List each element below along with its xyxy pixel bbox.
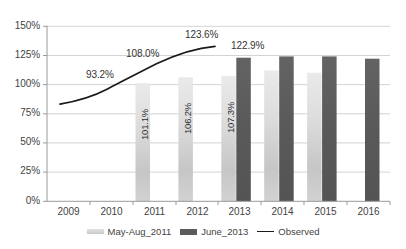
y-tick-label-50: 50% [4,136,40,147]
bar-value-label-june-2013-2013: 122.9% [231,40,264,51]
y-axis-ticks [43,26,47,201]
y-tick-label-75: 75% [4,107,40,118]
bar-may-aug-2011-2015 [307,73,322,202]
bar-value-label-2013: 107.3% [225,102,236,133]
y-tick-label-0: 0% [4,195,40,206]
y-tick-label-25: 25% [4,165,40,176]
x-tick-label-2012: 2012 [176,206,219,217]
light-bar-swatch-icon [87,229,104,234]
bar-may-aug-2011-2012 [178,77,193,201]
legend-label-may-aug-2011: May-Aug_2011 [108,226,172,237]
x-tick-label-2016: 2016 [347,206,390,217]
x-tick-label-2013: 2013 [218,206,261,217]
x-axis-ticks [90,201,390,205]
gridlines [47,26,390,172]
bar-june-2013-2014 [279,56,294,201]
bar-june-2013-2013 [236,58,251,202]
bar-june-2013-2016 [365,59,380,202]
x-tick-label-2014: 2014 [261,206,304,217]
bar-value-label-2011: 101.1% [139,109,150,140]
bar-value-label-2012: 106.2% [182,103,193,134]
legend-item-may-aug-2011[interactable]: May-Aug_2011 [87,226,172,237]
x-tick-label-2010: 2010 [90,206,133,217]
x-tick-label-2011: 2011 [133,206,176,217]
x-tick-label-2015: 2015 [304,206,347,217]
observed-value-label-2011: 108.0% [126,48,159,59]
bar-may-aug-2011-2011 [136,83,151,201]
legend-item-june-2013[interactable]: June_2013 [180,226,248,237]
y-tick-label-150: 150% [4,20,40,31]
observed-value-label-2010: 93.2% [86,69,114,80]
x-tick-label-2009: 2009 [47,206,90,217]
bar-may-aug-2011-2013 [221,76,236,201]
y-tick-label-100: 100% [4,78,40,89]
legend-item-observed[interactable]: Observed [257,226,319,237]
dark-bar-swatch-icon [180,229,197,235]
bar-june-2013-2015 [322,56,337,201]
bar-may-aug-2011-2014 [264,70,279,201]
line-swatch-icon [257,231,274,232]
chart-legend: May-Aug_2011 June_2013 Observed [0,226,406,237]
observed-value-label-2012: 123.6% [185,29,218,40]
legend-label-june-2013: June_2013 [201,226,248,237]
legend-label-observed: Observed [278,226,319,237]
y-tick-label-125: 125% [4,49,40,60]
bar-chart: 150% 125% 100% 75% 50% 25% 0% 2009 2010 … [0,0,406,249]
